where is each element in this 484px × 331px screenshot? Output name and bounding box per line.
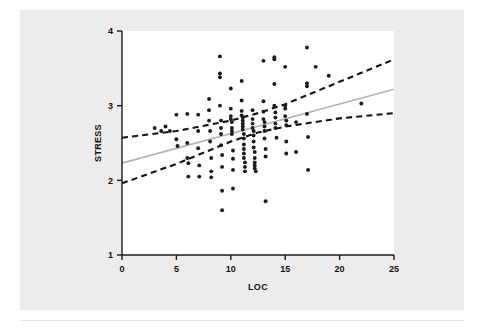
- data-point: [251, 122, 255, 126]
- data-point: [185, 156, 189, 160]
- y-axis-ticks: 1234: [108, 26, 122, 260]
- data-point: [208, 140, 212, 144]
- data-point: [241, 128, 245, 132]
- data-point: [230, 120, 234, 124]
- data-point: [208, 129, 212, 133]
- data-point: [273, 110, 277, 114]
- data-point: [220, 165, 224, 169]
- data-point: [231, 187, 235, 191]
- data-point: [273, 122, 277, 126]
- x-tick-label: 0: [119, 264, 124, 274]
- data-point: [306, 135, 310, 139]
- data-point: [231, 168, 235, 172]
- data-point: [186, 175, 190, 179]
- data-point: [219, 143, 223, 147]
- data-point: [240, 79, 244, 83]
- data-point: [305, 112, 309, 116]
- data-point: [185, 141, 189, 145]
- data-point: [197, 175, 201, 179]
- x-axis-ticks: 0510152025: [119, 255, 399, 274]
- data-point: [230, 132, 234, 136]
- data-point: [242, 147, 246, 151]
- data-point: [220, 208, 224, 212]
- data-point: [176, 144, 180, 148]
- lower-confidence-band: [122, 113, 394, 183]
- data-point: [240, 98, 244, 102]
- data-point: [242, 152, 246, 156]
- data-point: [283, 114, 287, 118]
- data-point: [164, 125, 168, 129]
- data-point: [207, 119, 211, 123]
- data-point: [263, 129, 267, 133]
- data-point: [242, 156, 246, 160]
- data-point: [243, 160, 247, 164]
- data-point: [261, 110, 265, 114]
- y-tick-label: 2: [108, 176, 113, 186]
- data-point: [209, 156, 213, 160]
- data-point: [209, 175, 213, 179]
- data-point: [273, 116, 277, 120]
- data-point: [261, 59, 265, 63]
- data-point: [264, 154, 268, 158]
- data-point: [218, 54, 222, 58]
- x-tick-label: 15: [280, 264, 290, 274]
- data-point: [263, 120, 267, 124]
- data-point: [209, 169, 213, 173]
- data-point: [219, 126, 223, 130]
- data-point: [359, 101, 363, 105]
- data-point: [220, 153, 224, 157]
- data-point: [305, 84, 309, 88]
- data-point: [252, 146, 256, 150]
- data-point: [263, 137, 267, 141]
- data-point: [273, 126, 277, 130]
- data-point: [275, 136, 279, 140]
- data-point: [294, 120, 298, 124]
- data-point: [252, 129, 256, 133]
- x-axis-title: LOC: [248, 282, 268, 292]
- data-point: [253, 156, 257, 160]
- data-point: [240, 109, 244, 113]
- y-tick-label: 4: [108, 26, 113, 36]
- data-point: [219, 132, 223, 136]
- data-point: [242, 137, 246, 141]
- data-point: [196, 113, 200, 117]
- data-point: [251, 117, 255, 121]
- data-point: [305, 45, 309, 49]
- data-point: [196, 146, 200, 150]
- x-tick-label: 25: [389, 264, 399, 274]
- data-point: [218, 75, 222, 79]
- data-point: [219, 119, 223, 123]
- data-point: [284, 119, 288, 123]
- data-point: [306, 168, 310, 172]
- data-point: [272, 104, 276, 108]
- confidence-band-group: [122, 59, 394, 183]
- data-point: [283, 107, 287, 111]
- data-point: [254, 169, 258, 173]
- data-point: [251, 108, 255, 112]
- y-axis-title: STRESS: [93, 124, 103, 162]
- data-point: [263, 125, 267, 129]
- data-point: [284, 123, 288, 127]
- data-point: [284, 140, 288, 144]
- data-point: [220, 189, 224, 193]
- data-point: [253, 150, 257, 154]
- data-point: [207, 97, 211, 101]
- scatter-chart: 0510152025 1234 LOC STRESS: [0, 0, 484, 331]
- data-point: [242, 132, 246, 136]
- data-point: [229, 87, 233, 91]
- data-point: [242, 143, 246, 147]
- x-tick-label: 10: [226, 264, 236, 274]
- data-point: [261, 99, 265, 103]
- y-tick-label: 1: [108, 250, 113, 260]
- data-point: [153, 126, 157, 130]
- data-point: [264, 147, 268, 151]
- regression-fit: [122, 89, 394, 163]
- data-point: [252, 134, 256, 138]
- data-point: [264, 199, 268, 203]
- data-point: [185, 112, 189, 116]
- data-point: [231, 149, 235, 153]
- data-point: [272, 57, 276, 61]
- data-point: [207, 108, 211, 112]
- data-point: [272, 82, 276, 86]
- data-point: [252, 140, 256, 144]
